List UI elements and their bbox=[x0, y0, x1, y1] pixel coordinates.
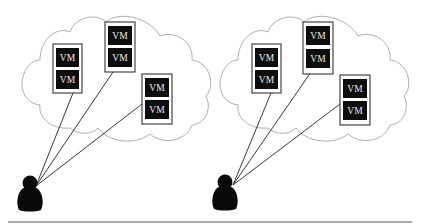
host-server: VM VM bbox=[340, 75, 370, 125]
vm-label: VM bbox=[310, 31, 326, 41]
user-icon bbox=[212, 175, 237, 211]
vm-label: VM bbox=[259, 75, 275, 85]
vm-label: VM bbox=[347, 84, 363, 94]
host-server: VM VM bbox=[303, 22, 333, 74]
host-server: VM VM bbox=[53, 44, 82, 93]
host-server: VM VM bbox=[105, 22, 135, 72]
vm-label: VM bbox=[60, 53, 76, 63]
cloud-group-left: VM VM VM VM VM VM bbox=[17, 16, 211, 211]
diagram-canvas: VM VM VM VM VM VM bbox=[0, 0, 423, 224]
host-server: VM VM bbox=[142, 74, 172, 124]
host-server: VM VM bbox=[252, 44, 281, 93]
vm-label: VM bbox=[149, 105, 165, 115]
vm-label: VM bbox=[112, 53, 128, 63]
vm-label: VM bbox=[259, 53, 275, 63]
vm-label: VM bbox=[347, 106, 363, 116]
user-icon bbox=[17, 176, 42, 212]
vm-label: VM bbox=[149, 83, 165, 93]
vm-label: VM bbox=[310, 54, 326, 64]
cloud-group-right: VM VM VM VM VM VM bbox=[212, 16, 409, 210]
vm-label: VM bbox=[112, 31, 128, 41]
vm-label: VM bbox=[60, 75, 76, 85]
